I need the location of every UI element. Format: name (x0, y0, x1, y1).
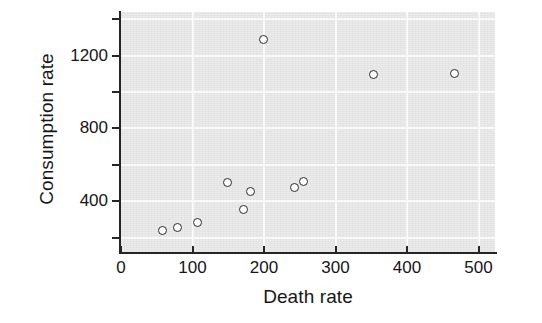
y-axis-tick (112, 18, 121, 20)
y-axis-tick (112, 127, 121, 129)
gridline-horizontal (121, 91, 495, 93)
data-point-marker (290, 183, 299, 192)
x-axis-line (119, 252, 497, 254)
x-tick-label: 300 (310, 258, 362, 278)
data-point-marker (450, 69, 459, 78)
x-axis-tick (120, 246, 122, 254)
y-tick-label: 400 (54, 191, 108, 211)
data-point-marker (259, 35, 268, 44)
y-axis-tick (112, 200, 121, 202)
x-axis-tick (192, 246, 194, 254)
y-axis-tick (112, 55, 121, 57)
x-axis-tick (335, 246, 337, 254)
y-tick-label: 800 (54, 118, 108, 138)
plot-panel (121, 12, 495, 253)
y-axis-line (119, 11, 121, 254)
gridline-horizontal (121, 200, 495, 202)
x-axis-tick (406, 246, 408, 254)
data-point-marker (193, 218, 202, 227)
gridline-horizontal (121, 164, 495, 166)
data-point-marker (299, 177, 308, 186)
gridline-vertical (192, 12, 194, 253)
gridline-vertical (335, 12, 337, 253)
y-axis-tick (112, 237, 121, 239)
data-point-marker (158, 226, 167, 235)
x-tick-label: 400 (381, 258, 433, 278)
gridline-horizontal (121, 18, 495, 20)
data-point-marker (173, 223, 182, 232)
data-point-marker (223, 178, 232, 187)
x-tick-label: 200 (238, 258, 290, 278)
x-axis-tick (478, 246, 480, 254)
gridline-horizontal (121, 55, 495, 57)
data-point-marker (239, 205, 248, 214)
y-axis-tick (112, 164, 121, 166)
y-axis-title: Consumption rate (36, 14, 58, 244)
y-tick-label: 1200 (54, 46, 108, 66)
gridline-vertical (478, 12, 480, 253)
gridline-horizontal (121, 127, 495, 129)
y-axis-tick (112, 91, 121, 93)
gridline-vertical (406, 12, 408, 253)
x-tick-label: 100 (167, 258, 219, 278)
x-tick-label: 500 (453, 258, 505, 278)
x-axis-tick (263, 246, 265, 254)
data-point-marker (369, 70, 378, 79)
x-axis-title: Death rate (121, 286, 495, 308)
data-point-marker (246, 187, 255, 196)
x-tick-label: 0 (95, 258, 147, 278)
scatter-plot-figure: 4008001200 Consumption rate Death rate 0… (0, 0, 542, 323)
gridline-vertical (263, 12, 265, 253)
gridline-horizontal (121, 237, 495, 239)
